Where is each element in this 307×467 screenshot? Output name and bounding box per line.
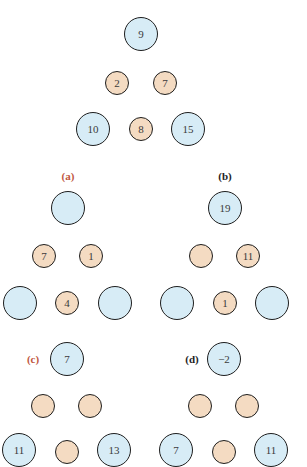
puzzle-b-bot-mid-node: 1 [213,291,237,315]
puzzle-d-bot-mid-node [212,440,236,464]
puzzle-b-label: (b) [218,170,231,182]
puzzle-d-bot-left-node: 7 [159,433,193,467]
puzzle-b-bot-left-node [160,286,194,320]
puzzle-a-mid-right-node: 1 [79,244,103,268]
puzzle-c-label: (c) [27,353,39,365]
puzzle-d-mid-right-node [235,394,259,418]
puzzle-a-bot-right-node [98,286,132,320]
puzzle-c-bot-left-node: 11 [2,433,36,467]
example-bot-right-node: 15 [171,112,205,146]
puzzle-d-top-node: −2 [207,342,241,376]
example-top-node: 9 [124,17,158,51]
puzzle-a-top-node [51,191,85,225]
puzzle-c-bot-right-node: 13 [97,433,131,467]
puzzle-d-label: (d) [185,353,198,365]
example-bot-mid-node: 8 [129,117,153,141]
puzzle-c-bot-mid-node [55,440,79,464]
puzzle-a-bot-left-node [3,286,37,320]
puzzle-b-mid-right-node: 11 [236,244,260,268]
puzzle-a-bot-mid-node: 4 [55,291,79,315]
example-mid-left-node: 2 [105,71,129,95]
puzzle-a-mid-left-node: 7 [32,244,56,268]
puzzle-c-top-node: 7 [50,342,84,376]
puzzle-b-mid-left-node [189,244,213,268]
example-mid-right-node: 7 [153,71,177,95]
puzzle-d-bot-right-node: 11 [254,433,288,467]
puzzle-c-mid-right-node [78,394,102,418]
puzzle-d-mid-left-node [188,394,212,418]
puzzle-b-top-node: 19 [208,191,242,225]
puzzle-b-bot-right-node [255,286,289,320]
puzzle-c-mid-left-node [31,394,55,418]
puzzle-a-label: (a) [62,170,75,182]
example-bot-left-node: 10 [76,112,110,146]
